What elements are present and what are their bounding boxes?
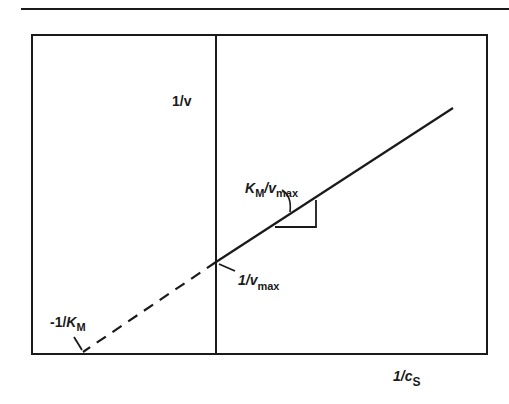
data-line-extrapolated bbox=[83, 262, 216, 352]
x-intercept-label: -1/KM bbox=[50, 314, 86, 333]
y-intercept-pointer bbox=[219, 264, 235, 271]
slope-triangle bbox=[275, 200, 316, 227]
y-axis-label: 1/v bbox=[172, 93, 192, 109]
slope-label: KM/vmax bbox=[245, 180, 299, 199]
lineweaver-burk-diagram: 1/v KM/vmax 1/vmax -1/KM 1/cS bbox=[0, 0, 509, 404]
y-intercept-label: 1/vmax bbox=[238, 272, 280, 292]
x-intercept-pointer bbox=[74, 337, 82, 350]
x-axis-label: 1/cS bbox=[393, 368, 420, 389]
